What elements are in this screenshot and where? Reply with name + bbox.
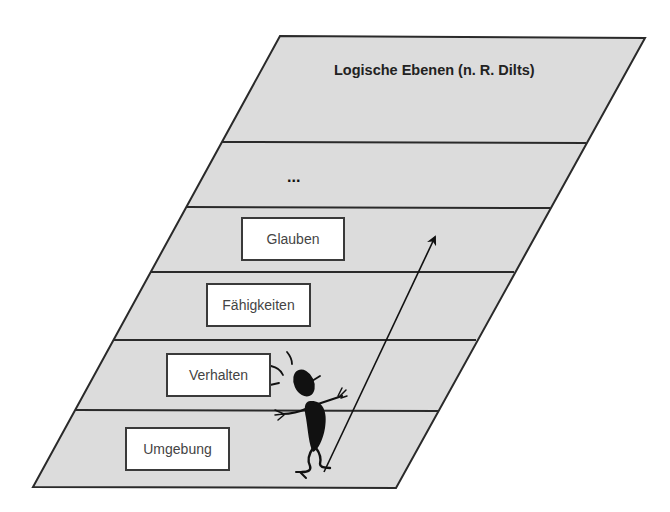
- level-ellipsis-label: ...: [287, 168, 300, 186]
- level-divider-5: [75, 410, 438, 411]
- level-box-faehigkeiten: Fähigkeiten: [206, 283, 311, 327]
- level-plane: [33, 36, 645, 488]
- level-divider-2: [186, 207, 550, 208]
- diagram-title: Logische Ebenen (n. R. Dilts): [334, 62, 535, 78]
- level-box-umgebung: Umgebung: [125, 427, 230, 471]
- level-divider-1: [222, 142, 586, 143]
- level-box-verhalten: Verhalten: [166, 353, 271, 397]
- level-box-glauben: Glauben: [241, 217, 345, 261]
